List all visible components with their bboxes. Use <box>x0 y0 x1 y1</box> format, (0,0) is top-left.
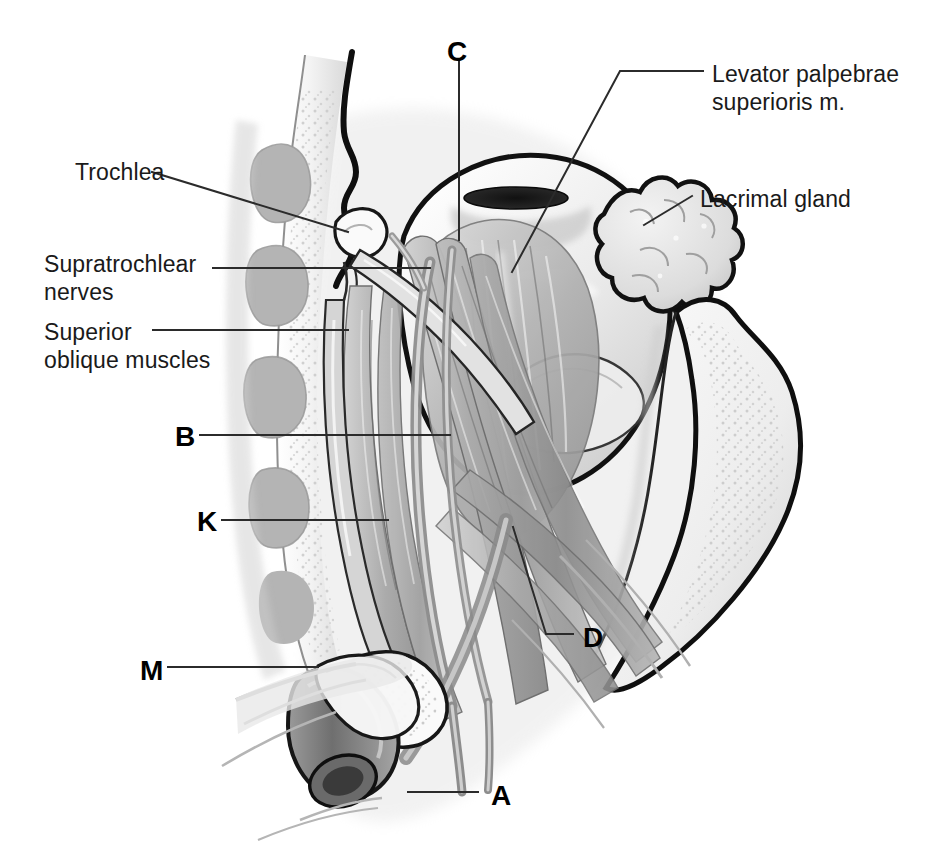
label-lacrimal-gland: Lacrimal gland <box>700 185 851 213</box>
label-superior-oblique: Superior oblique muscles <box>44 318 210 374</box>
label-key-k: K <box>197 506 217 538</box>
label-key-c: C <box>447 36 467 68</box>
label-trochlea: Trochlea <box>75 158 164 186</box>
label-levator-palpebrae: Levator palpebrae superioris m. <box>712 60 899 116</box>
label-key-b: B <box>175 421 195 453</box>
label-key-d: D <box>583 622 603 654</box>
anatomy-artwork <box>0 0 945 868</box>
label-key-m: M <box>140 655 163 687</box>
anatomical-illustration: TrochleaSupratrochlear nervesSuperior ob… <box>0 0 945 868</box>
label-key-a: A <box>491 780 511 812</box>
label-supratrochlear-nerves: Supratrochlear nerves <box>44 250 196 306</box>
